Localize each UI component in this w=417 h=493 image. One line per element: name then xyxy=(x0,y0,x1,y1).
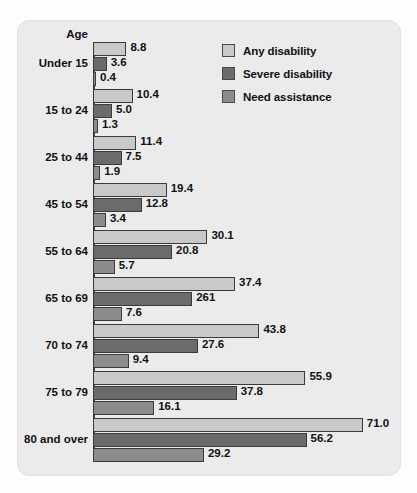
bar xyxy=(93,386,237,400)
bar xyxy=(93,198,142,212)
bar xyxy=(93,151,122,165)
category-label: 25 to 44 xyxy=(0,151,88,163)
category-label: 75 to 79 xyxy=(0,386,88,398)
bar-value-label: 5.0 xyxy=(116,103,132,115)
category-label: 65 to 69 xyxy=(0,292,88,304)
bar xyxy=(93,213,106,227)
bar-plot-area: Under 158.83.60.415 to 2410.45.01.325 to… xyxy=(0,0,417,493)
bar-value-label: 1.3 xyxy=(102,118,118,130)
bar-value-label: 9.4 xyxy=(133,353,149,365)
bar-value-label: 27.6 xyxy=(202,338,224,350)
bar-value-label: 5.7 xyxy=(119,259,135,271)
bar-value-label: 37.4 xyxy=(239,276,261,288)
bar-value-label: 43.8 xyxy=(263,323,285,335)
bar-group: Under 158.83.60.4 xyxy=(0,42,417,89)
bar-value-label: 0.4 xyxy=(100,71,116,83)
category-label: 55 to 64 xyxy=(0,245,88,257)
category-label: 15 to 24 xyxy=(0,104,88,116)
bar xyxy=(93,418,363,432)
bar xyxy=(93,183,167,197)
bar-value-label: 8.8 xyxy=(130,41,146,53)
bar-group: 70 to 7443.827.69.4 xyxy=(0,324,417,371)
bar xyxy=(93,245,172,259)
bar-value-label: 7.6 xyxy=(126,306,142,318)
bar-value-label: 3.6 xyxy=(111,56,127,68)
category-label: 80 and over xyxy=(0,433,88,445)
bar xyxy=(93,354,129,368)
bar-value-label: 20.8 xyxy=(176,244,198,256)
bar-value-label: 37.8 xyxy=(241,385,263,397)
bar xyxy=(93,339,198,353)
bar xyxy=(93,401,154,415)
bar-value-label: 12.8 xyxy=(146,197,168,209)
bar-value-label: 1.9 xyxy=(104,165,120,177)
bar-value-label: 29.2 xyxy=(208,447,230,459)
bar-value-label: 19.4 xyxy=(171,182,193,194)
bar xyxy=(93,277,235,291)
bar xyxy=(93,104,112,118)
bar xyxy=(93,57,107,71)
bar xyxy=(93,119,98,133)
bar xyxy=(93,307,122,321)
category-label: Under 15 xyxy=(0,57,88,69)
bar-group: 80 and over71.056.229.2 xyxy=(0,418,417,465)
category-label: 70 to 74 xyxy=(0,339,88,351)
bar-value-label: 56.2 xyxy=(311,432,333,444)
bar xyxy=(93,230,207,244)
bar-value-label: 55.9 xyxy=(309,370,331,382)
bar-value-label: 7.5 xyxy=(126,150,142,162)
bar-group: 25 to 4411.47.51.9 xyxy=(0,136,417,183)
bar xyxy=(93,448,204,462)
bar xyxy=(93,324,259,338)
bar-group: 45 to 5419.412.83.4 xyxy=(0,183,417,230)
bar-group: 55 to 6430.120.85.7 xyxy=(0,230,417,277)
bar-value-label: 71.0 xyxy=(367,417,389,429)
bar xyxy=(93,433,307,447)
category-label: 45 to 54 xyxy=(0,198,88,210)
bar-value-label: 3.4 xyxy=(110,212,126,224)
bar xyxy=(93,166,100,180)
bar-value-label: 16.1 xyxy=(158,400,180,412)
bar-group: 75 to 7955.937.816.1 xyxy=(0,371,417,418)
bar xyxy=(93,292,192,306)
bar xyxy=(93,89,133,103)
bar xyxy=(93,72,96,86)
bar xyxy=(93,260,115,274)
bar xyxy=(93,42,126,56)
bar-group: 15 to 2410.45.01.3 xyxy=(0,89,417,136)
bar xyxy=(93,371,305,385)
bar-group: 65 to 6937.42617.6 xyxy=(0,277,417,324)
bar-value-label: 261 xyxy=(196,291,215,303)
bar-value-label: 10.4 xyxy=(137,88,159,100)
bar-value-label: 30.1 xyxy=(211,229,233,241)
bar xyxy=(93,136,136,150)
chart-page: Age Any disability Severe disability Nee… xyxy=(0,0,417,493)
bar-value-label: 11.4 xyxy=(140,135,162,147)
